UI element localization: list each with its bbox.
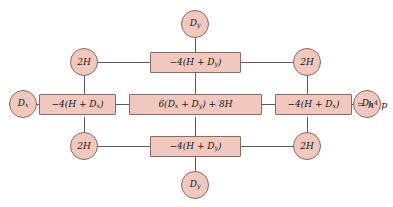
node-corner-top-right-2h: 2H [293, 48, 321, 76]
edge-boxcenter-to-boxright [261, 104, 276, 105]
annotation-variable: p [378, 99, 387, 110]
node-box-top: −4(H + Dy) [150, 52, 241, 73]
node-box-bottom: −4(H + Dy) [150, 136, 241, 157]
node-box-center-label: 6(Dx + Dy) + 8H [158, 100, 232, 109]
node-box-right: −4(H + Dx) [275, 94, 352, 115]
node-corner-bottom-left-2h: 2H [70, 132, 98, 160]
node-box-left-label: −4(H + Dx) [51, 100, 103, 109]
node-box-center: 6(Dx + Dy) + 8H [129, 94, 262, 115]
edge-boxtop-to-cornertr [240, 62, 294, 63]
edge-boxbottom-to-bottomcircle [195, 157, 196, 172]
edge-boxleft-to-boxcenter [115, 104, 130, 105]
node-top-circle-dy: Dy [181, 10, 209, 38]
node-bottom-circle-dy: Dy [181, 171, 209, 199]
node-corner-bottom-left-label: 2H [77, 142, 91, 151]
annotation-equals-h4p: = h4 p [357, 99, 387, 110]
node-corner-top-left-2h: 2H [70, 48, 98, 76]
edge-cornerbl-to-boxbottom [97, 146, 151, 147]
clipped-header-text [52, 0, 352, 4]
node-box-top-label: −4(H + Dy) [169, 58, 221, 67]
node-corner-bottom-right-label: 2H [300, 142, 314, 151]
edge-cornertl-to-boxtop [97, 62, 151, 63]
node-box-left: −4(H + Dx) [39, 94, 116, 115]
node-corner-top-left-label: 2H [77, 58, 91, 67]
node-box-right-label: −4(H + Dx) [287, 100, 339, 109]
node-corner-top-right-label: 2H [300, 58, 314, 67]
annotation-equals-text: = h [357, 99, 374, 110]
node-corner-bottom-right-2h: 2H [293, 132, 321, 160]
node-left-circle-label: Dx [18, 99, 29, 108]
edge-topcircle-to-boxtop [195, 37, 196, 52]
node-box-bottom-label: −4(H + Dy) [169, 142, 221, 151]
node-bottom-circle-label: Dy [190, 180, 201, 189]
node-top-circle-label: Dy [190, 19, 201, 28]
stencil-diagram: Dy 2H −4(H + Dy) 2H Dx −4(H + Dx) 6(Dx +… [0, 0, 393, 207]
edge-boxbottom-to-cornerbr [240, 146, 294, 147]
node-left-circle-dx: Dx [9, 90, 37, 118]
